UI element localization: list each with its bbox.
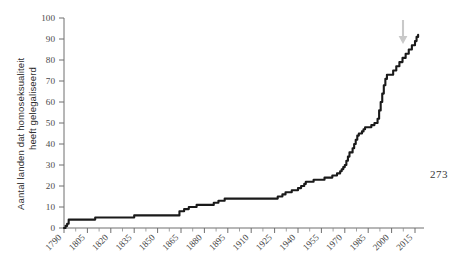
x-tick-label: 1970 (324, 232, 344, 252)
x-tick-label: 2015 (394, 232, 414, 252)
y-tick-label: 100 (41, 13, 55, 23)
y-tick-label: 50 (46, 118, 56, 128)
x-tick-label: 1955 (301, 232, 321, 252)
x-tick-label: 1910 (231, 232, 251, 252)
chart-svg: 0102030405060708090100 17901805182018351… (0, 0, 476, 267)
x-tick-label: 2000 (371, 232, 391, 252)
page-number: 273 (430, 168, 448, 180)
x-tick-label: 1835 (114, 232, 134, 252)
x-tick-label: 1925 (254, 232, 274, 252)
end-of-curve-arrow-icon (399, 20, 408, 44)
y-axis-title-line-2: heeft gelegaliseerd (27, 67, 38, 150)
y-axis-tick-labels: 0102030405060708090100 (41, 13, 55, 233)
y-axis-title: Aantal landen dat homoseksualiteit heeft… (15, 58, 38, 210)
x-tick-label: 1895 (207, 232, 227, 252)
x-tick-label: 1880 (184, 232, 204, 252)
x-tick-label: 1805 (67, 232, 87, 252)
y-tick-label: 70 (46, 76, 56, 86)
y-tick-label: 10 (46, 202, 56, 212)
y-tick-label: 90 (46, 34, 56, 44)
x-tick-label: 1820 (90, 232, 110, 252)
y-tick-label: 40 (46, 139, 56, 149)
x-tick-label: 1865 (160, 232, 180, 252)
x-tick-label: 1790 (43, 232, 63, 252)
x-tick-label: 1850 (137, 232, 157, 252)
y-axis-ticks (59, 18, 64, 228)
x-axis-ticks (64, 228, 415, 233)
chart-figure: 0102030405060708090100 17901805182018351… (0, 0, 476, 267)
data-series-line (64, 35, 418, 228)
x-axis-tick-labels: 1790180518201835185018651880189519101925… (43, 232, 414, 252)
x-tick-label: 1940 (277, 232, 297, 252)
x-tick-label: 1985 (348, 232, 368, 252)
y-tick-label: 60 (46, 97, 56, 107)
y-tick-label: 30 (46, 160, 56, 170)
y-tick-label: 80 (46, 55, 56, 65)
y-tick-label: 20 (46, 181, 56, 191)
y-axis-title-line-1: Aantal landen dat homoseksualiteit (15, 58, 26, 210)
y-tick-label: 0 (50, 223, 55, 233)
